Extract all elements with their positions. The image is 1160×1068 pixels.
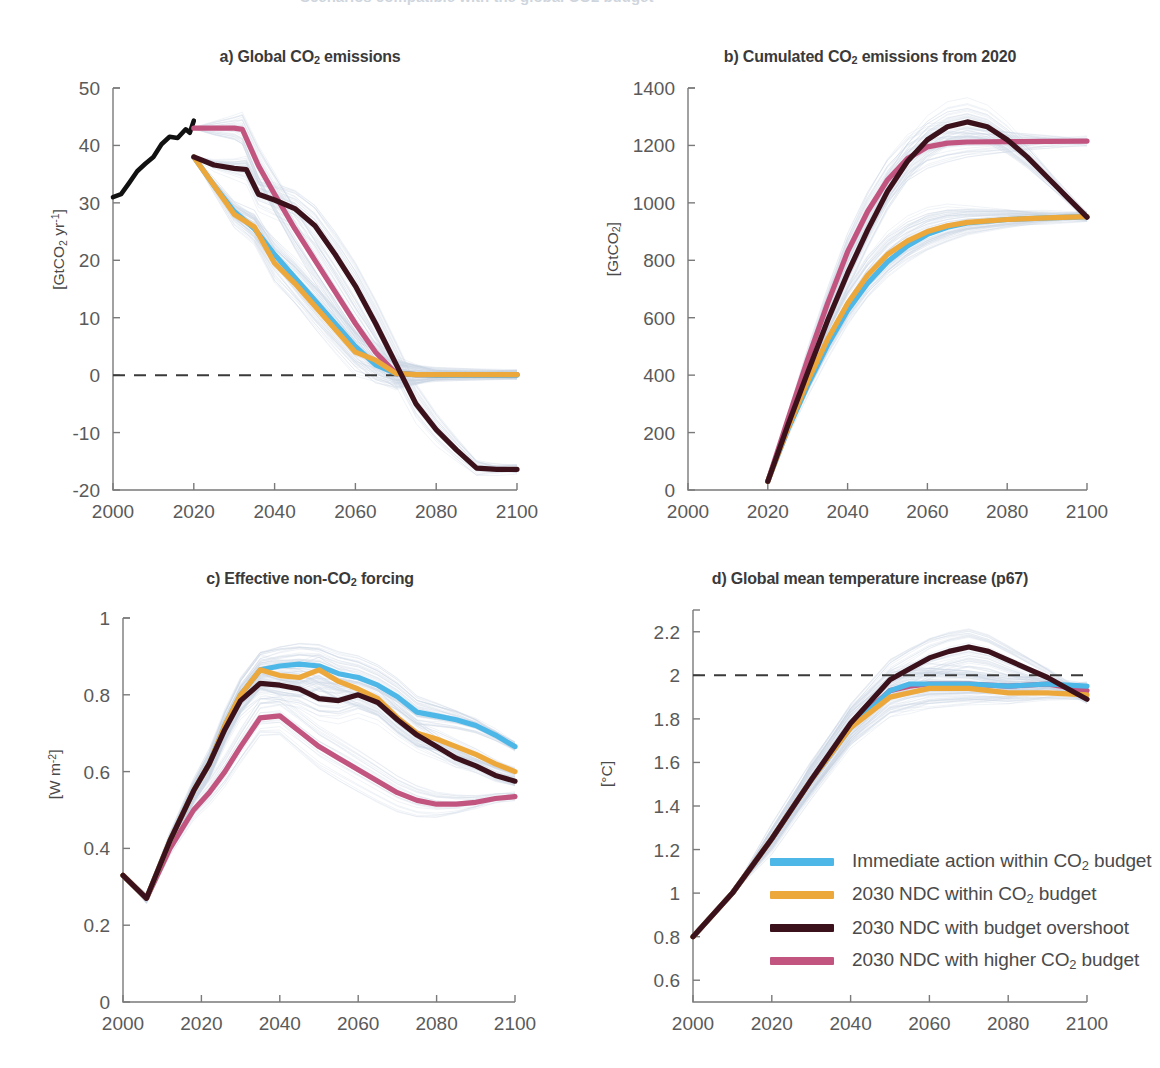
y-tick-label: 1.2: [654, 840, 680, 861]
x-tick-label: 2040: [826, 501, 868, 522]
x-tick-label: 2000: [102, 1013, 144, 1034]
y-tick-label: 1400: [633, 78, 675, 99]
panel-d: d) Global mean temperature increase (p67…: [575, 560, 1160, 1040]
panel-c: c) Effective non-CO2 forcing [W m-2] 00.…: [0, 560, 560, 1040]
legend-item-ndc-higher: 2030 NDC with higher CO2 budget: [770, 944, 1152, 977]
y-tick-label: 0.4: [84, 838, 111, 859]
x-tick-label: 2060: [337, 1013, 379, 1034]
panel-b-title: b) Cumulated CO2 emissions from 2020: [635, 48, 1105, 66]
y-tick-label: 1.8: [654, 709, 680, 730]
x-tick-label: 2040: [829, 1013, 871, 1034]
y-tick-label: 1000: [633, 193, 675, 214]
x-tick-label: 2020: [751, 1013, 793, 1034]
y-tick-label: 600: [643, 308, 675, 329]
figure-root: Scenarios compatible with the global CO2…: [0, 0, 1160, 1068]
legend-item-immediate: Immediate action within CO2 budget: [770, 845, 1152, 878]
y-tick-label: 0: [664, 480, 675, 501]
y-tick-label: 0.2: [84, 915, 110, 936]
historical-line: [113, 121, 194, 197]
legend-label-ndc-within: 2030 NDC within CO2 budget: [852, 883, 1096, 906]
y-tick-label: 1.4: [654, 796, 681, 817]
series-line-ndc-within: [123, 670, 515, 899]
y-tick-label: 0: [89, 365, 100, 386]
y-tick-label: 800: [643, 250, 675, 271]
legend-label-ndc-overshoot: 2030 NDC with budget overshoot: [852, 917, 1129, 939]
legend-swatch-ndc-overshoot: [770, 924, 834, 932]
y-tick-label: 50: [79, 78, 100, 99]
panel-b: b) Cumulated CO2 emissions from 2020 [Gt…: [575, 40, 1160, 510]
legend-label-immediate: Immediate action within CO2 budget: [852, 850, 1152, 873]
panel-a-ylabel: [GtCO2 yr-1]: [49, 185, 68, 315]
y-tick-label: 1.6: [654, 752, 680, 773]
y-tick-label: 0: [99, 992, 110, 1013]
legend-label-ndc-higher: 2030 NDC with higher CO2 budget: [852, 949, 1139, 972]
y-tick-label: 200: [643, 423, 675, 444]
y-tick-label: 10: [79, 308, 100, 329]
legend-item-ndc-within: 2030 NDC within CO2 budget: [770, 878, 1152, 911]
x-tick-label: 2000: [672, 1013, 714, 1034]
x-tick-label: 2040: [253, 501, 295, 522]
legend-swatch-ndc-higher: [770, 957, 834, 965]
y-tick-label: 2: [669, 665, 680, 686]
y-tick-label: -10: [73, 423, 100, 444]
x-tick-label: 2060: [906, 501, 948, 522]
y-tick-label: 20: [79, 250, 100, 271]
legend: Immediate action within CO2 budget 2030 …: [770, 845, 1152, 977]
panel-d-title: d) Global mean temperature increase (p67…: [630, 570, 1110, 588]
x-tick-label: 2080: [415, 1013, 457, 1034]
panel-b-plot: 0200400600800100012001400200020202040206…: [575, 40, 1160, 510]
y-tick-label: 0.8: [654, 927, 680, 948]
x-tick-label: 2020: [173, 501, 215, 522]
x-tick-label: 2060: [334, 501, 376, 522]
legend-swatch-immediate: [770, 858, 834, 866]
y-tick-label: 1200: [633, 135, 675, 156]
y-tick-label: 0.6: [654, 970, 680, 991]
panel-a-title: a) Global CO2 emissions: [100, 48, 520, 66]
panel-b-ylabel: [GtCO2]: [604, 194, 622, 304]
x-tick-label: 2060: [908, 1013, 950, 1034]
cut-off-header-strip: Scenarios compatible with the global CO2…: [0, 0, 1160, 6]
x-tick-label: 2080: [415, 501, 457, 522]
panel-c-title: c) Effective non-CO2 forcing: [100, 570, 520, 588]
panel-c-ylabel: [W m-2]: [46, 719, 65, 829]
y-tick-label: 1: [669, 883, 680, 904]
y-tick-label: 2.2: [654, 622, 680, 643]
x-tick-label: 2100: [1066, 501, 1108, 522]
series-line-ndc-higher: [768, 141, 1087, 481]
y-tick-label: 0.8: [84, 685, 110, 706]
y-tick-label: 0.6: [84, 762, 110, 783]
y-tick-label: 30: [79, 193, 100, 214]
cut-off-header-text: Scenarios compatible with the global CO2…: [300, 0, 653, 5]
panel-a-plot: -20-100102030405020002020204020602080210…: [0, 40, 560, 510]
x-tick-label: 2100: [1066, 1013, 1108, 1034]
y-tick-label: -20: [73, 480, 100, 501]
x-tick-label: 2000: [92, 501, 134, 522]
x-tick-label: 2040: [259, 1013, 301, 1034]
ensemble-lines: [768, 98, 1087, 483]
x-tick-label: 2080: [986, 501, 1028, 522]
legend-swatch-ndc-within: [770, 891, 834, 899]
ensemble-lines: [123, 643, 515, 904]
x-tick-label: 2080: [987, 1013, 1029, 1034]
x-tick-label: 2020: [747, 501, 789, 522]
x-tick-label: 2020: [180, 1013, 222, 1034]
panel-c-plot: 00.20.40.60.81200020202040206020802100: [0, 560, 560, 1040]
x-tick-label: 2100: [496, 501, 538, 522]
panel-d-ylabel: [°C]: [598, 719, 616, 829]
y-tick-label: 400: [643, 365, 675, 386]
panel-a: a) Global CO2 emissions [GtCO2 yr-1] -20…: [0, 40, 560, 510]
legend-item-ndc-overshoot: 2030 NDC with budget overshoot: [770, 911, 1152, 944]
x-tick-label: 2100: [494, 1013, 536, 1034]
x-tick-label: 2000: [667, 501, 709, 522]
y-tick-label: 1: [99, 608, 110, 629]
y-tick-label: 40: [79, 135, 100, 156]
